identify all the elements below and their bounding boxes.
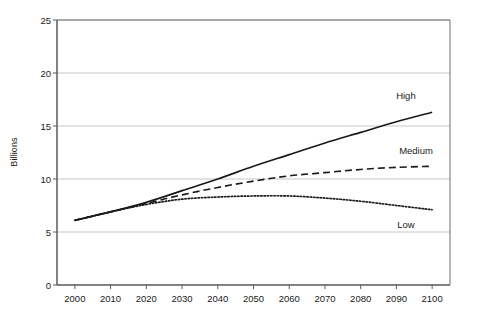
series-line-medium bbox=[75, 166, 432, 220]
series-line-low bbox=[75, 196, 432, 221]
series-label-low: Low bbox=[397, 219, 414, 230]
population-projection-chart: Billions 0510152025 20002010202020302040… bbox=[0, 0, 487, 321]
plot-frame bbox=[57, 20, 450, 285]
plot-area bbox=[0, 0, 487, 321]
series-label-medium: Medium bbox=[399, 145, 433, 156]
series-label-high: High bbox=[396, 90, 416, 101]
series-line-high bbox=[75, 112, 432, 220]
